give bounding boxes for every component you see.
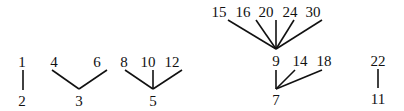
node-8: 8 <box>120 54 128 70</box>
node-11: 11 <box>371 91 385 107</box>
node-4: 4 <box>50 54 58 70</box>
node-16: 16 <box>236 4 252 20</box>
node-10: 10 <box>141 54 156 70</box>
edge-14-7 <box>276 70 295 89</box>
edge-16-9 <box>256 20 276 49</box>
edge-30-9 <box>276 20 322 49</box>
edge-8-5 <box>125 70 153 89</box>
node-22: 22 <box>371 53 386 69</box>
node-14: 14 <box>293 53 309 69</box>
tree-root-11: 22 11 <box>371 53 386 107</box>
edge-4-3 <box>52 70 79 89</box>
edge-6-3 <box>79 70 107 89</box>
node-7: 7 <box>272 92 280 108</box>
tree-root-3: 4 6 3 <box>50 54 107 109</box>
node-30: 30 <box>306 4 321 20</box>
node-18: 18 <box>317 53 332 69</box>
tree-root-2: 1 2 <box>18 54 26 109</box>
node-6: 6 <box>93 54 101 70</box>
node-3: 3 <box>75 93 83 109</box>
edge-15-9 <box>228 20 276 49</box>
node-15: 15 <box>212 4 227 20</box>
tree-root-5: 8 10 12 5 <box>120 54 182 109</box>
edge-18-7 <box>276 70 322 89</box>
node-12: 12 <box>165 54 180 70</box>
tree-root-7: 14 18 7 <box>272 53 331 108</box>
node-5: 5 <box>149 93 157 109</box>
number-forest-diagram: 1 2 4 6 3 8 10 12 5 15 16 20 24 30 9 <box>0 0 404 111</box>
edge-24-9 <box>276 20 294 49</box>
node-1: 1 <box>18 54 26 70</box>
node-20: 20 <box>259 4 274 20</box>
node-24: 24 <box>283 4 299 20</box>
node-2: 2 <box>18 93 26 109</box>
edge-12-5 <box>153 70 182 89</box>
node-9: 9 <box>272 53 280 69</box>
